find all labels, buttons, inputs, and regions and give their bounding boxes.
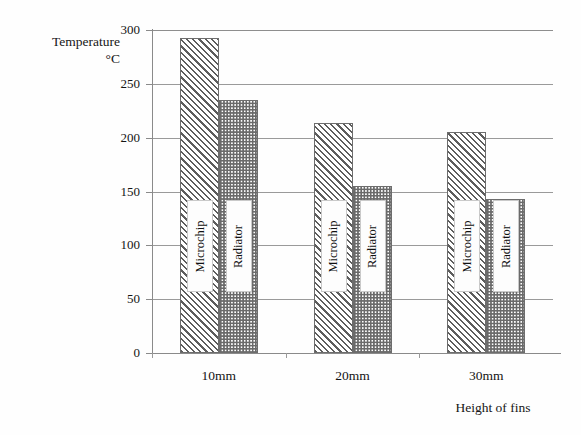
y-axis-title: Temperature °C bbox=[8, 33, 120, 67]
chart-page: Temperature °C Height of fins 0501001502… bbox=[0, 0, 581, 435]
y-axis-tick-label: 150 bbox=[98, 184, 140, 200]
x-axis-category-label: 30mm bbox=[441, 368, 531, 384]
x-axis-tick bbox=[419, 353, 420, 358]
bar-series-label-text: Radiator bbox=[499, 224, 514, 267]
x-axis-category-label: 10mm bbox=[174, 368, 264, 384]
y-axis-tick bbox=[146, 30, 152, 31]
y-axis-title-line2: °C bbox=[8, 50, 120, 67]
x-axis-line bbox=[146, 353, 561, 354]
y-axis-tick-label: 100 bbox=[98, 237, 140, 253]
bar-series-label: Microchip bbox=[454, 200, 480, 292]
y-axis-tick-label: 300 bbox=[98, 22, 140, 38]
y-axis-line bbox=[152, 29, 153, 354]
y-axis-tick-label: 50 bbox=[98, 291, 140, 307]
bar-microchip-10mm[interactable] bbox=[180, 38, 219, 353]
y-axis-tick bbox=[146, 84, 152, 85]
bar-series-label-text: Microchip bbox=[192, 220, 207, 272]
bar-series-label-text: Microchip bbox=[460, 220, 475, 272]
y-axis-tick-label: 200 bbox=[98, 130, 140, 146]
x-axis-title: Height of fins bbox=[418, 400, 568, 416]
y-axis-tick bbox=[146, 138, 152, 139]
y-axis-tick-label: 250 bbox=[98, 76, 140, 92]
x-axis-tick bbox=[152, 353, 153, 358]
y-axis-tick bbox=[146, 245, 152, 246]
bar-series-label-text: Microchip bbox=[326, 220, 341, 272]
gridline bbox=[152, 30, 553, 31]
bar-series-label: Microchip bbox=[187, 200, 213, 292]
bar-series-label: Radiator bbox=[360, 200, 386, 292]
bar-series-label: Radiator bbox=[493, 200, 519, 292]
x-axis-category-label: 20mm bbox=[308, 368, 398, 384]
y-axis-tick-label: 0 bbox=[98, 345, 140, 361]
bar-series-label: Radiator bbox=[226, 200, 252, 292]
bar-series-label-text: Radiator bbox=[231, 224, 246, 267]
y-axis-tick bbox=[146, 192, 152, 193]
bar-series-label-text: Radiator bbox=[365, 224, 380, 267]
y-axis-tick bbox=[146, 299, 152, 300]
bar-series-label: Microchip bbox=[321, 200, 347, 292]
x-axis-tick bbox=[286, 353, 287, 358]
